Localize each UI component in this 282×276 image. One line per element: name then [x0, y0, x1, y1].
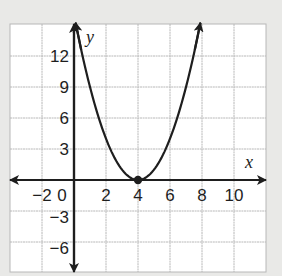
- y-tick-label: 9: [60, 78, 69, 97]
- x-axis-label: x: [244, 152, 253, 172]
- x-tick-label: 10: [225, 186, 244, 205]
- y-tick-label: 12: [50, 47, 69, 66]
- x-tick-label: 4: [133, 186, 142, 205]
- y-tick-label: −6: [50, 239, 69, 258]
- x-tick-label: −2: [32, 186, 51, 205]
- vertex-point: [134, 176, 142, 184]
- y-tick-label: −3: [50, 208, 69, 227]
- x-tick-label: 6: [165, 186, 174, 205]
- y-tick-label: 3: [60, 140, 69, 159]
- y-axis-label: y: [84, 27, 94, 47]
- x-tick-label: 8: [197, 186, 206, 205]
- y-tick-label: 6: [60, 109, 69, 128]
- x-tick-label: 2: [101, 186, 110, 205]
- x-tick-label: 0: [57, 186, 66, 205]
- parabola-chart: −2024681012963−3−6 x y: [0, 0, 282, 276]
